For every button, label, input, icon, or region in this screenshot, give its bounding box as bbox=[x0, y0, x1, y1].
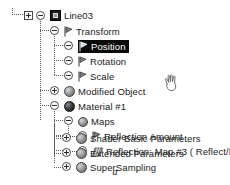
sphere-icon bbox=[76, 148, 87, 159]
expand-plus-icon-extended-parameters[interactable] bbox=[62, 148, 71, 157]
tree-row-shader-basic[interactable]: Shader Basic Parameters bbox=[0, 131, 230, 146]
hand-cursor-icon bbox=[160, 70, 182, 94]
sphere-icon bbox=[76, 133, 87, 144]
tree-row-extended-parameters[interactable]: Extended Parameters bbox=[0, 146, 230, 161]
figure-caption: a bbox=[0, 166, 230, 177]
lower-rows-container: Shader Basic Parameters Extended Paramet… bbox=[0, 0, 230, 185]
tree-row-label: Shader Basic Parameters bbox=[90, 133, 201, 144]
tree-row-label: Extended Parameters bbox=[90, 148, 184, 159]
expand-plus-icon-shader-basic[interactable] bbox=[62, 133, 71, 142]
